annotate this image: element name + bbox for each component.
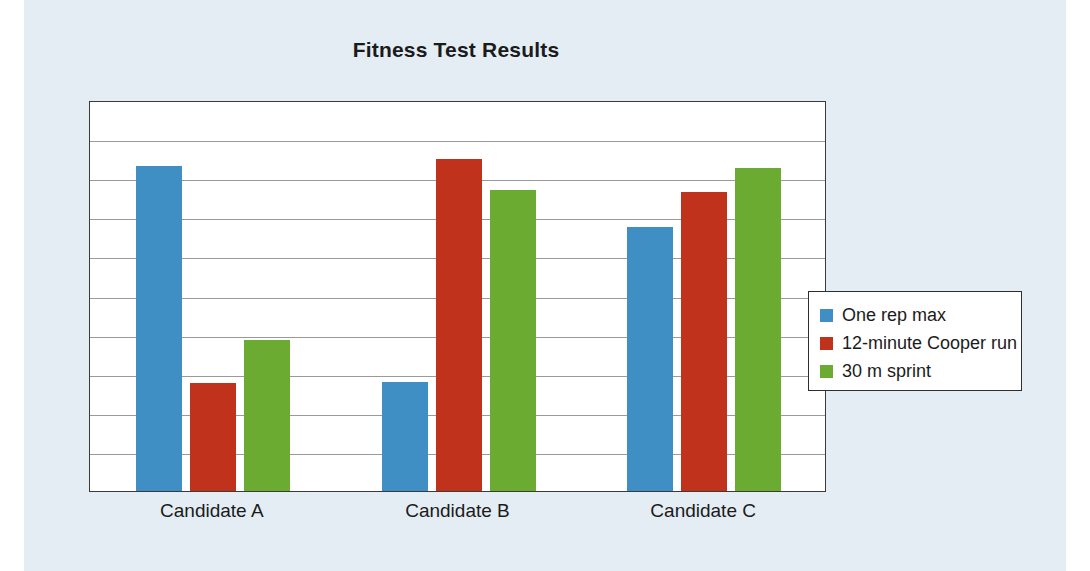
bar-candidate-a-series-1	[190, 383, 236, 491]
plot-area	[89, 101, 826, 492]
bar-candidate-a-series-2	[244, 340, 290, 491]
chart-legend: One rep max12-minute Cooper run30 m spri…	[808, 291, 1022, 391]
x-axis-label-candidate-b: Candidate B	[335, 500, 581, 522]
bar-candidate-b-series-1	[436, 159, 482, 491]
legend-item-label: 30 m sprint	[842, 361, 931, 382]
bar-candidate-b-series-2	[490, 190, 536, 491]
bar-candidate-a-series-0	[136, 166, 182, 491]
bar-candidate-c-series-2	[735, 168, 781, 491]
legend-swatch-icon	[820, 337, 833, 350]
legend-swatch-icon	[820, 309, 833, 322]
bar-candidate-c-series-1	[681, 192, 727, 491]
legend-item-label: One rep max	[842, 305, 946, 326]
bars-layer	[90, 102, 825, 491]
legend-item: 30 m sprint	[820, 357, 1021, 385]
legend-swatch-icon	[820, 365, 833, 378]
legend-item: One rep max	[820, 301, 1021, 329]
x-axis-label-candidate-c: Candidate C	[580, 500, 826, 522]
legend-item: 12-minute Cooper run	[820, 329, 1021, 357]
bar-candidate-b-series-0	[382, 382, 428, 491]
bar-candidate-c-series-0	[627, 227, 673, 491]
legend-item-label: 12-minute Cooper run	[842, 333, 1017, 354]
chart-page: Fitness Test Results Candidate ACandidat…	[0, 0, 1090, 571]
chart-title: Fitness Test Results	[0, 38, 912, 62]
x-axis-label-candidate-a: Candidate A	[89, 500, 335, 522]
